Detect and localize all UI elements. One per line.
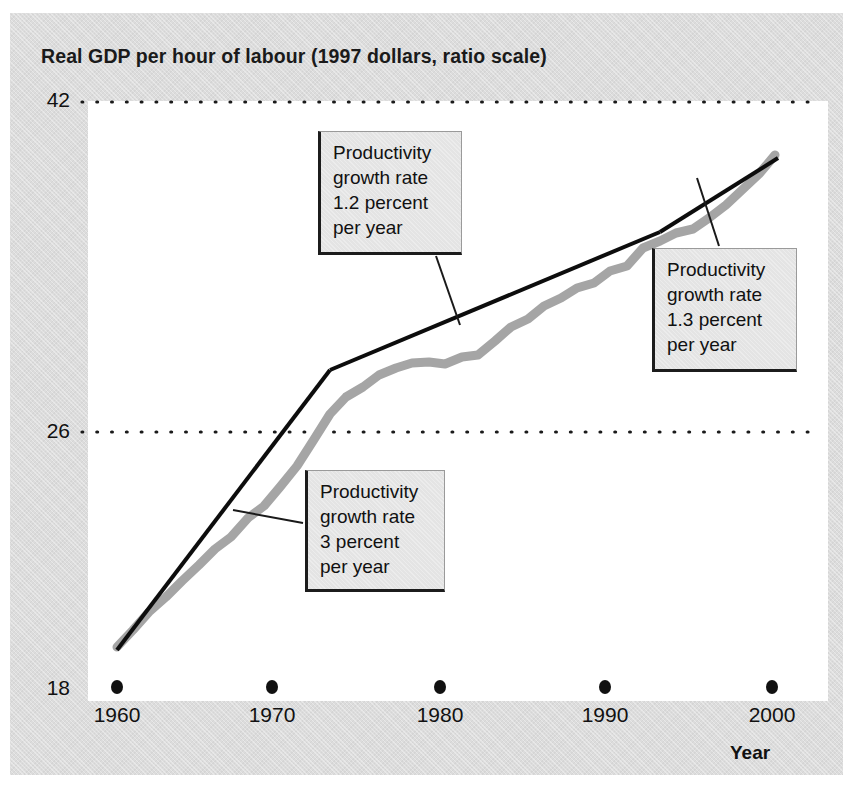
callout-line-3: 3 percent [320, 529, 434, 554]
annotation-callout-3-percent: Productivity growth rate 3 percent per y… [305, 470, 445, 592]
callout-line-1: Productivity [667, 257, 786, 282]
x-tick-label-1970: 1970 [227, 703, 317, 727]
callout-line-3: 1.3 percent [667, 307, 786, 332]
y-tick-label-42: 42 [24, 88, 70, 112]
callout-line-1: Productivity [320, 479, 434, 504]
figure-panel [10, 13, 843, 775]
callout-line-2: growth rate [320, 504, 434, 529]
y-tick-label-26: 26 [24, 419, 70, 443]
x-axis-title: Year [730, 742, 770, 764]
x-tick-label-1960: 1960 [72, 703, 162, 727]
callout-line-3: 1.2 percent [333, 190, 451, 215]
annotation-callout-1-3-percent: Productivity growth rate 1.3 percent per… [652, 248, 797, 372]
annotation-callout-1-2-percent: Productivity growth rate 1.2 percent per… [318, 131, 462, 255]
x-tick-label-2000: 2000 [727, 703, 817, 727]
figure-root: Real GDP per hour of labour (1997 dollar… [0, 0, 853, 788]
x-tick-label-1980: 1980 [395, 703, 485, 727]
callout-line-1: Productivity [333, 140, 451, 165]
callout-line-4: per year [320, 554, 434, 579]
callout-line-4: per year [667, 332, 786, 357]
callout-line-2: growth rate [333, 165, 451, 190]
callout-line-2: growth rate [667, 282, 786, 307]
x-tick-label-1990: 1990 [560, 703, 650, 727]
y-tick-label-18: 18 [24, 676, 70, 700]
page-title: Real GDP per hour of labour (1997 dollar… [41, 45, 547, 68]
callout-line-4: per year [333, 215, 451, 240]
